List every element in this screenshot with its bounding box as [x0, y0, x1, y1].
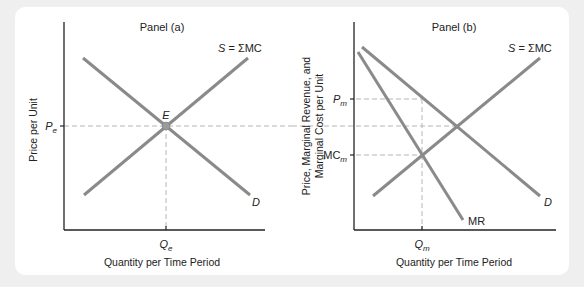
diagram: Panel (a) E S = ΣMC D Pe Qe Quantity per…	[0, 0, 584, 287]
mcm-tick-label: MCm	[323, 149, 347, 164]
x-axis-title-a: Quantity per Time Period	[104, 256, 220, 268]
equilibrium-label: E	[162, 109, 170, 121]
pm-tick-label: Pm	[333, 93, 347, 108]
supply-label-a: S = ΣMC	[218, 42, 262, 54]
qe-tick-label: Qe	[159, 238, 173, 253]
supply-label-b: S = ΣMC	[508, 42, 552, 54]
qm-subscript: m	[423, 244, 430, 253]
y-axis-title-b-line1: Price, Marginal Revenue, and	[300, 57, 312, 195]
qe-subscript: e	[168, 244, 173, 253]
y-axis-title-b-line2: Marginal Cost per Unit	[313, 74, 325, 179]
panel-b: Panel (b) S = ΣMC D MR Pm MCm Qm Quantit…	[292, 21, 556, 268]
panel-b-title: Panel (b)	[432, 21, 477, 33]
panel-a-title: Panel (a)	[140, 21, 185, 33]
supply-label-b-rest: = ΣMC	[515, 42, 551, 54]
demand-label-a: D	[252, 196, 260, 208]
qm-tick-label: Qm	[414, 238, 430, 253]
supply-label-a-rest: = ΣMC	[225, 42, 261, 54]
pm-subscript: m	[340, 99, 347, 108]
mcm-symbol: MC	[323, 149, 340, 161]
mcm-subscript: m	[340, 155, 347, 164]
demand-label-b: D	[544, 196, 552, 208]
y-axis-title-a: Price per Unit	[27, 98, 39, 162]
pe-tick-label: Pe	[45, 120, 57, 135]
panel-a: Panel (a) E S = ΣMC D Pe Qe Quantity per…	[27, 21, 292, 268]
demand-curve-b	[362, 47, 540, 196]
mr-label: MR	[468, 215, 485, 227]
equilibrium-point	[162, 122, 170, 130]
pe-subscript: e	[53, 126, 58, 135]
x-axis-title-b: Quantity per Time Period	[396, 256, 512, 268]
